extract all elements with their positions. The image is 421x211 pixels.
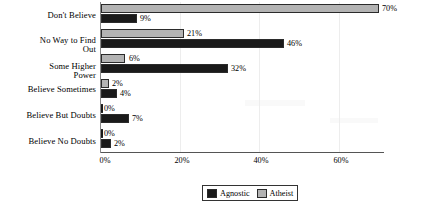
bar-value-agnostic-dont-believe: 9%: [140, 14, 151, 23]
bar-value-agnostic-no-way-to-find-out: 46%: [287, 39, 302, 48]
category-label-believe-sometimes: Believe Sometimes: [0, 85, 96, 94]
bar-atheist-believe-sometimes: [101, 79, 109, 88]
bar-agnostic-believe-no-doubts: [101, 139, 111, 148]
legend-item-atheist: Atheist: [257, 189, 294, 198]
bar-value-atheist-no-way-to-find-out: 21%: [187, 29, 202, 38]
x-axis-line: [101, 152, 384, 153]
y-axis-line: [100, 2, 101, 153]
gridline-60: [339, 2, 340, 152]
bar-value-atheist-dont-believe: 70%: [382, 4, 397, 13]
bar-agnostic-some-higher-power: [101, 64, 228, 73]
bar-agnostic-believe-but-doubts: [101, 114, 129, 123]
gridline-20: [180, 2, 181, 152]
category-label-believe-but-doubts: Believe But Doubts: [0, 111, 96, 120]
bar-agnostic-believe-sometimes: [101, 89, 117, 98]
category-axis-labels: Don't Believe No Way to Find Out Some Hi…: [0, 0, 96, 152]
gridline-40: [259, 2, 260, 152]
chart-legend: Agnostic Atheist: [202, 185, 298, 201]
bar-atheist-no-way-to-find-out: [101, 29, 184, 38]
bar-chart: Don't Believe No Way to Find Out Some Hi…: [0, 0, 421, 211]
bar-value-agnostic-some-higher-power: 32%: [231, 64, 246, 73]
bar-atheist-believe-no-doubts: [101, 129, 103, 138]
x-tick-20: 20%: [174, 156, 189, 166]
x-tick-60: 60%: [333, 156, 348, 166]
bar-value-agnostic-believe-but-doubts: 7%: [132, 114, 143, 123]
x-tick-40: 40%: [253, 156, 268, 166]
plot-area: 70% 9% 21% 46% 6% 32% 2% 4% 0% 7% 0% 2%: [101, 2, 382, 152]
legend-swatch-atheist: [257, 189, 267, 198]
category-label-no-way-to-find-out: No Way to Find Out: [0, 36, 96, 54]
bar-atheist-dont-believe: [101, 4, 379, 13]
bar-value-atheist-some-higher-power: 6%: [129, 54, 140, 63]
bar-agnostic-no-way-to-find-out: [101, 39, 284, 48]
bar-value-agnostic-believe-sometimes: 4%: [120, 89, 131, 98]
legend-label-agnostic: Agnostic: [220, 189, 250, 198]
x-tick-0: 0%: [100, 156, 111, 166]
category-label-believe-no-doubts: Believe No Doubts: [0, 137, 96, 146]
bar-agnostic-dont-believe: [101, 14, 137, 23]
legend-label-atheist: Atheist: [270, 189, 294, 198]
bar-atheist-some-higher-power: [101, 54, 125, 63]
legend-item-agnostic: Agnostic: [207, 189, 250, 198]
bar-value-atheist-believe-no-doubts: 0%: [104, 129, 115, 138]
bar-value-atheist-believe-sometimes: 2%: [112, 79, 123, 88]
bar-atheist-believe-but-doubts: [101, 104, 103, 113]
bar-value-atheist-believe-but-doubts: 0%: [104, 104, 115, 113]
category-label-dont-believe: Don't Believe: [0, 11, 96, 20]
category-label-some-higher-power: Some Higher Power: [0, 62, 96, 80]
bar-value-agnostic-believe-no-doubts: 2%: [114, 139, 125, 148]
legend-swatch-agnostic: [207, 189, 217, 198]
